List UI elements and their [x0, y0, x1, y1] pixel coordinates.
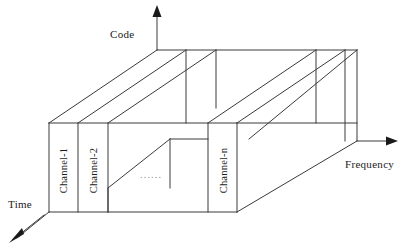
cube-depth-edge-chn-right	[237, 50, 345, 123]
cube-depth-edge-right-top	[249, 50, 357, 139]
code-axis-arrow	[153, 5, 162, 50]
channel-ellipsis: ......	[140, 169, 162, 180]
time-axis-label: Time	[8, 198, 32, 210]
cube-depth-edge-ch1	[78, 50, 186, 123]
cube-diagram-graphic	[0, 0, 404, 247]
diagram-canvas: Code Frequency Time Channel-1 Channel-2 …	[0, 0, 404, 247]
frequency-axis-arrow	[357, 137, 398, 146]
time-axis-arrow	[9, 212, 49, 243]
channel-label-2: Channel-2	[88, 139, 99, 203]
cube-interior-depth-lower	[108, 139, 170, 188]
cube-depth-edge-ch2	[108, 50, 216, 123]
cube-depth-edge-chn	[208, 50, 316, 123]
frequency-axis-label: Frequency	[345, 158, 394, 170]
cube-depth-edge-bottom-right	[237, 141, 357, 212]
channel-label-1: Channel-1	[58, 139, 69, 203]
code-axis-label: Code	[110, 28, 134, 40]
cube-depth-edge-left	[49, 50, 157, 123]
channel-label-n: Channel-n	[218, 139, 229, 203]
